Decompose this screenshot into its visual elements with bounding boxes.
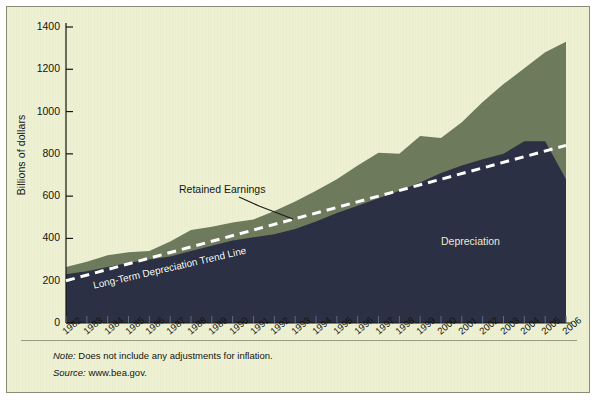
y-axis-tick-label: 600 bbox=[26, 189, 60, 201]
y-axis-tick-label: 200 bbox=[26, 274, 60, 286]
area-chart-plot bbox=[7, 7, 591, 394]
note-divider bbox=[21, 340, 577, 341]
y-axis-tick-label: 1400 bbox=[26, 20, 60, 32]
screenshot-root: Billions of dollars 14001200100080060040… bbox=[0, 0, 596, 411]
figure-frame: Billions of dollars 14001200100080060040… bbox=[6, 6, 590, 393]
note-text: Does not include any adjustments for inf… bbox=[76, 350, 273, 361]
note-prefix: Note: bbox=[53, 350, 76, 361]
figure-note: Note: Does not include any adjustments f… bbox=[53, 350, 273, 361]
figure-source: Source: www.bea.gov. bbox=[53, 367, 147, 378]
y-axis-tick-label: 1200 bbox=[26, 62, 60, 74]
y-axis-tick-label: 1000 bbox=[26, 105, 60, 117]
y-axis-tick-label: 800 bbox=[26, 147, 60, 159]
y-axis-tick-label: 0 bbox=[26, 316, 60, 328]
y-axis-tick-label: 400 bbox=[26, 231, 60, 243]
figure-background: Billions of dollars 14001200100080060040… bbox=[7, 7, 589, 392]
source-text: www.bea.gov. bbox=[86, 367, 147, 378]
series-label-depreciation: Depreciation bbox=[441, 235, 500, 247]
source-prefix: Source: bbox=[53, 367, 86, 378]
series-label-retained-earnings: Retained Earnings bbox=[179, 183, 265, 195]
area-depreciation bbox=[66, 141, 566, 323]
